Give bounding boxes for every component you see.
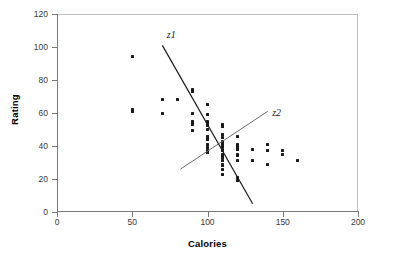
y-tick-label: 0 xyxy=(18,208,48,217)
data-point xyxy=(191,112,194,115)
data-point xyxy=(266,143,269,146)
x-axis-title: Calories xyxy=(57,238,358,249)
x-tick-label: 150 xyxy=(265,218,301,227)
y-axis-title: Rating xyxy=(9,80,20,140)
data-point xyxy=(221,149,224,152)
data-point xyxy=(191,129,194,132)
y-tick-label: 60 xyxy=(18,109,48,118)
data-point xyxy=(206,124,209,127)
y-tick-label: 100 xyxy=(18,43,48,52)
data-point xyxy=(221,136,224,139)
y-tick-label: 80 xyxy=(18,76,48,85)
scatter-plot-figure: 020406080100120 050100150200 z1 z2 Calor… xyxy=(0,0,396,268)
data-point xyxy=(236,135,239,138)
data-point xyxy=(206,151,209,154)
data-point xyxy=(176,98,179,101)
data-point xyxy=(281,153,284,156)
data-point xyxy=(236,154,239,157)
data-point xyxy=(206,113,209,116)
data-point xyxy=(206,103,209,106)
data-point xyxy=(236,148,239,151)
y-tick-mark xyxy=(52,113,57,114)
y-tick-mark xyxy=(52,179,57,180)
x-tick-label: 50 xyxy=(114,218,150,227)
data-point xyxy=(221,173,224,176)
data-point xyxy=(236,159,239,162)
data-point xyxy=(206,138,209,141)
x-tick-label: 0 xyxy=(39,218,75,227)
data-point xyxy=(191,123,194,126)
data-point xyxy=(251,159,254,162)
data-point xyxy=(266,163,269,166)
data-point xyxy=(236,179,239,182)
data-point xyxy=(161,112,164,115)
y-tick-label: 120 xyxy=(18,10,48,19)
data-point xyxy=(221,168,224,171)
data-point xyxy=(131,55,134,58)
x-tick-label: 200 xyxy=(340,218,376,227)
y-tick-mark xyxy=(52,14,57,15)
data-point xyxy=(221,125,224,128)
z2-label: z2 xyxy=(272,107,281,118)
y-tick-mark xyxy=(52,146,57,147)
y-tick-label: 20 xyxy=(18,175,48,184)
z1-label: z1 xyxy=(167,29,176,40)
data-point xyxy=(221,164,224,167)
y-tick-label: 40 xyxy=(18,142,48,151)
data-point xyxy=(191,90,194,93)
y-tick-mark xyxy=(52,80,57,81)
data-point xyxy=(206,128,209,131)
data-point xyxy=(251,148,254,151)
data-point xyxy=(131,110,134,113)
data-point xyxy=(161,98,164,101)
y-tick-mark xyxy=(52,47,57,48)
x-tick-label: 100 xyxy=(190,218,226,227)
y-axis-line xyxy=(57,14,58,212)
data-point xyxy=(221,159,224,162)
